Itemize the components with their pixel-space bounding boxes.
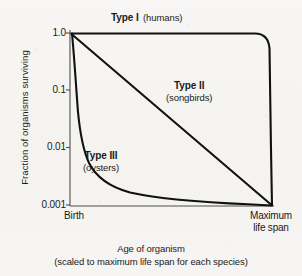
survivorship-curve-figure: Fraction of organisms surviving 1.0 0.1 … xyxy=(0,0,302,276)
annotation-type-2-name: Type II xyxy=(166,80,212,92)
x-axis-caption: Age of organism (scaled to maximum life … xyxy=(0,243,302,268)
annotation-type-1-species: (humans) xyxy=(143,12,182,23)
x-axis-label-birth: Birth xyxy=(46,210,102,221)
x-axis-caption-line2: (scaled to maximum life span for each sp… xyxy=(0,256,302,269)
x-axis-label-maximum-life-span: Maximum life span xyxy=(240,210,302,233)
x-axis-label-maximum-line1: Maximum xyxy=(240,210,302,222)
plot-area xyxy=(0,0,302,276)
annotation-type-1: Type I (humans) xyxy=(111,10,182,24)
annotation-type-3-name: Type III xyxy=(83,150,119,162)
annotation-type-1-name: Type I xyxy=(111,12,139,23)
annotation-type-3-species: (oysters) xyxy=(83,162,119,174)
annotation-type-3: Type III (oysters) xyxy=(83,150,119,173)
annotation-type-2: Type II (songbirds) xyxy=(166,80,212,103)
x-axis-caption-line1: Age of organism xyxy=(0,243,302,256)
x-axis-label-maximum-line2: life span xyxy=(240,222,302,234)
annotation-type-2-species: (songbirds) xyxy=(166,92,212,104)
